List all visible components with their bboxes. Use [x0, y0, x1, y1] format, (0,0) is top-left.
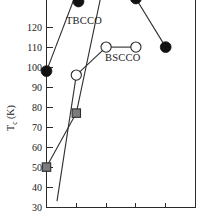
- y-axis-title-unit: (K): [5, 105, 17, 121]
- marker-square-50k: [42, 163, 50, 171]
- axis-frame: [47, 0, 196, 208]
- svg-text:Tc (K): Tc (K): [5, 105, 19, 131]
- y-tick-label-60: 60: [32, 142, 42, 153]
- bscco-rise-line: [57, 75, 76, 201]
- tbcco-rise-line: [47, 0, 77, 71]
- y-tick-label-100: 100: [27, 62, 42, 73]
- marker-filled-circle-top-right: [131, 0, 142, 4]
- annotation-bscco: BSCCO: [105, 52, 141, 63]
- y-tick-label-120: 120: [27, 22, 42, 33]
- marker-filled-circle-top-left: [73, 0, 84, 7]
- bscco-mid-line: [76, 47, 106, 75]
- y-tick-label-30: 30: [32, 202, 42, 213]
- y-tick-label-90: 90: [32, 82, 42, 93]
- marker-open-circle-110k-right: [131, 42, 141, 52]
- marker-filled-circle-98k: [41, 66, 52, 77]
- marker-square-83k: [72, 109, 80, 117]
- marker-open-circle-110k-left: [101, 42, 111, 52]
- y-axis-tick-labels: 120 110 100 90 80 70 60 50 40 30: [27, 22, 42, 213]
- y-axis-ticks: [47, 27, 53, 207]
- square-series-line: [47, 113, 77, 167]
- x-axis-ticks: [47, 202, 196, 208]
- y-tick-label-110: 110: [27, 42, 42, 53]
- y-tick-label-70: 70: [32, 122, 42, 133]
- chart-figure: 120 110 100 90 80 70 60 50 40 30 Tc (K): [0, 0, 212, 217]
- markers-tbcco: [41, 0, 171, 77]
- marker-open-circle-96k: [71, 70, 81, 80]
- annotation-tbcco: TBCCO: [66, 15, 102, 26]
- series-bscco-lines: [57, 47, 136, 201]
- marker-filled-circle-110k: [160, 42, 171, 53]
- y-tick-label-80: 80: [32, 102, 42, 113]
- tbcco-descend-line: [136, 0, 166, 47]
- plot-canvas: 120 110 100 90 80 70 60 50 40 30 Tc (K): [0, 0, 212, 217]
- y-tick-label-40: 40: [32, 182, 42, 193]
- y-axis-title: Tc (K): [5, 105, 19, 131]
- y-tick-label-50: 50: [32, 162, 42, 173]
